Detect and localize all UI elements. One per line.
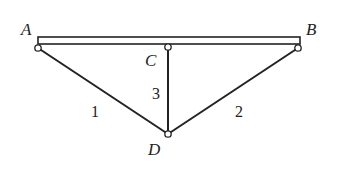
node-label-c: C: [145, 51, 157, 70]
pin-c: [165, 44, 171, 50]
truss-diagram: A B C D 1 2 3: [0, 0, 338, 176]
node-label-d: D: [147, 140, 161, 159]
beam-ab: [38, 37, 300, 44]
pin-a: [35, 45, 41, 51]
member-label-3: 3: [152, 85, 160, 102]
pin-d: [165, 131, 171, 137]
member-label-2: 2: [235, 103, 243, 120]
node-label-b: B: [306, 20, 317, 39]
member-label-1: 1: [91, 103, 99, 120]
member-2: [168, 48, 298, 134]
node-label-a: A: [20, 20, 32, 39]
pin-b: [295, 45, 301, 51]
